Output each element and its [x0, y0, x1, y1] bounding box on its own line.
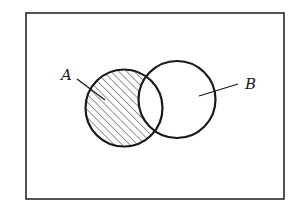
set-b-label: B [244, 75, 256, 93]
set-a-label: A [59, 66, 72, 84]
venn-diagram: A B [0, 0, 299, 212]
